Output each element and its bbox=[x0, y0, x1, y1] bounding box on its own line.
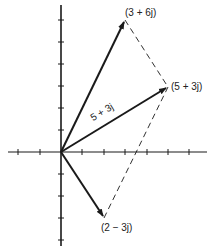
vector-addition-diagram bbox=[0, 0, 209, 248]
label-5-plus-3j: (5 + 3j) bbox=[171, 81, 202, 92]
label-3-plus-6j: (3 + 6j) bbox=[125, 7, 156, 18]
dashed-line-a-to-sum bbox=[125, 20, 168, 87]
label-2-minus-3j: (2 − 3j) bbox=[101, 222, 132, 233]
vector-2-minus-3j bbox=[61, 152, 103, 216]
